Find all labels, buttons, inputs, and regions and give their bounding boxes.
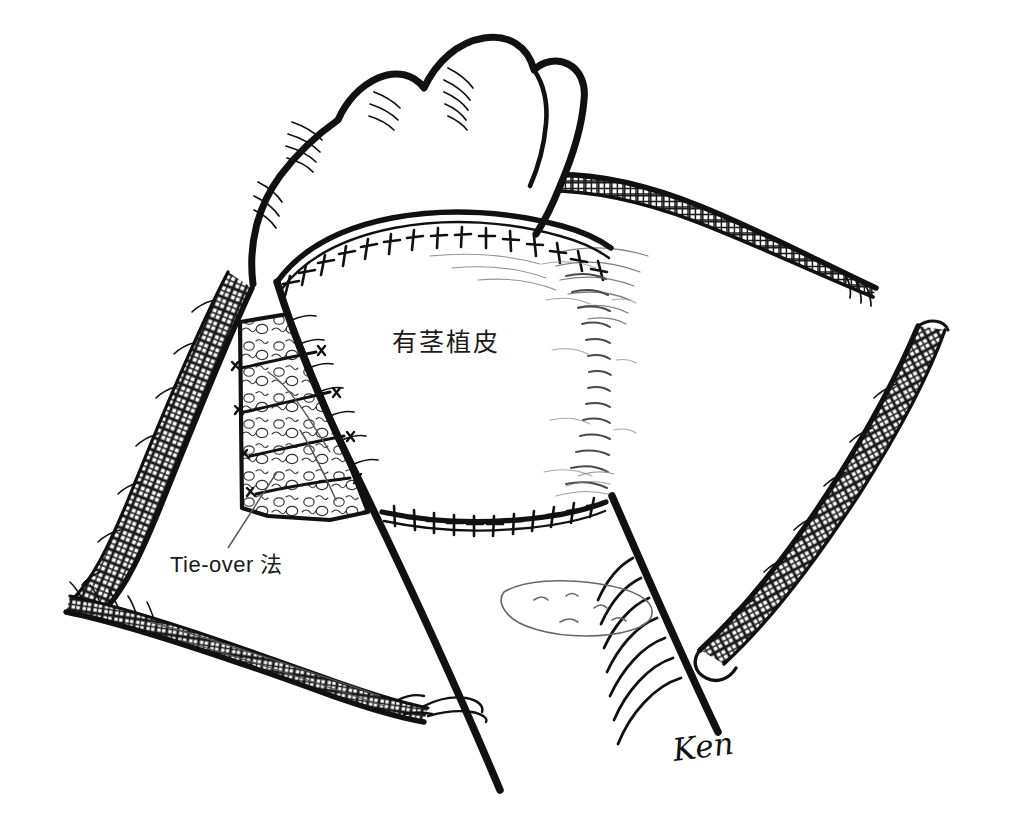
label-tie-over-method: Tie-over 法 xyxy=(170,546,283,578)
right-arm-gauze xyxy=(690,320,960,680)
pedicle-graft-area xyxy=(542,262,636,488)
flap-edge-right xyxy=(501,496,718,744)
tie-over-bolster xyxy=(230,305,380,530)
label-pedicled-skin-graft: 有茎植皮 xyxy=(392,322,500,358)
surgical-illustration xyxy=(0,0,1013,824)
artist-signature: Ken xyxy=(671,725,736,768)
illustration-canvas: 有茎植皮 Tie-over 法 Ken xyxy=(0,0,1013,824)
